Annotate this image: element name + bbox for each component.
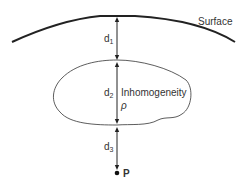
surface-label: Surface [198, 16, 233, 27]
point-p-marker [115, 171, 120, 176]
d2-label: d2 [104, 87, 114, 99]
point-p-label: P [123, 168, 130, 179]
diagram: Surface d1 d2 Inhomogeneity ρ d3 P [0, 0, 249, 183]
inhomogeneity-label: Inhomogeneity [121, 87, 187, 98]
density-label: ρ [120, 100, 127, 111]
d1-label: d1 [104, 33, 114, 45]
d3-label: d3 [104, 141, 114, 153]
